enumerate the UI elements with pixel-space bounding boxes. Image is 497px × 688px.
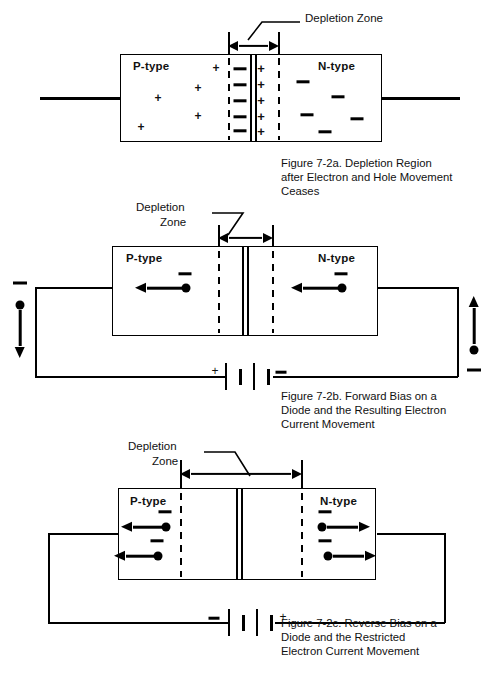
circuit-wire-right-b[interactable] <box>457 287 459 377</box>
figure-7-2c: Depletion Zone + P-type N-type <box>0 438 497 688</box>
battery-negative-terminal-c <box>209 617 220 620</box>
terminal-left-current-arrow-b <box>19 310 22 346</box>
electron-motion-arrow-c <box>126 555 155 558</box>
terminal-right-current-arrow-b <box>473 308 476 344</box>
depletion-leader-line-a <box>0 0 497 60</box>
depletion-width-arrow-b <box>229 237 262 239</box>
p-type-label-a: P-type <box>133 60 169 72</box>
junction-charge-plus: + <box>257 62 265 75</box>
circuit-wire-left-c[interactable] <box>48 533 50 623</box>
junction-line-a-1 <box>250 54 252 142</box>
battery-positive-terminal-b: + <box>211 365 218 377</box>
junction-charge-minus <box>234 99 247 102</box>
lead-left-a <box>40 97 120 100</box>
n-type-label-c: N-type <box>320 495 357 507</box>
electron-charge <box>332 95 345 98</box>
caption-line: Figure 7-2c. Reverse Bias on a <box>281 616 493 630</box>
depletion-boundary-left-a <box>228 58 230 140</box>
electron-motion-arrow-c <box>327 526 358 529</box>
depletion-boundary-right-c <box>301 493 303 577</box>
n-type-label-a: N-type <box>318 60 355 72</box>
hole-charge: + <box>194 82 201 94</box>
p-type-label-c: P-type <box>130 495 166 507</box>
electron-charge <box>301 113 314 116</box>
electron-charge-symbol-c <box>319 510 332 513</box>
electron-charge-symbol-c <box>151 539 164 542</box>
circuit-wire-top-left-c[interactable] <box>48 533 118 535</box>
electron-charge-symbol-b <box>179 272 192 275</box>
caption-line: Diode and the Restricted <box>281 630 493 644</box>
battery-plate-long-c <box>228 609 230 636</box>
electron-motion-arrow-b <box>303 287 339 290</box>
junction-line-c-2 <box>241 488 243 580</box>
battery-plate-long-b <box>225 363 227 390</box>
caption-line: after Electron and Hole Movement <box>281 170 493 184</box>
junction-charge-plus: + <box>257 110 265 123</box>
hole-charge: + <box>137 121 144 133</box>
circuit-wire-bottom-left-b[interactable] <box>35 376 225 378</box>
p-type-label-b: P-type <box>126 252 162 264</box>
circuit-wire-right-c[interactable] <box>444 533 446 623</box>
battery-plate-short-c <box>242 615 245 631</box>
hole-charge: + <box>154 92 161 104</box>
n-type-label-b: N-type <box>318 252 355 264</box>
junction-charge-plus: + <box>257 78 265 91</box>
electron-c <box>324 552 333 561</box>
depletion-width-arrow-c <box>191 473 291 475</box>
caption-line: Diode and the Resulting Electron <box>281 403 493 417</box>
depletion-width-arrow-a <box>239 45 268 47</box>
junction-charge-plus: + <box>257 125 265 138</box>
terminal-right-electron-b <box>470 346 479 355</box>
junction-line-b-2 <box>247 246 249 336</box>
electron-c <box>318 523 327 532</box>
circuit-wire-bottom-left-c[interactable] <box>48 622 228 624</box>
caption-line: Current Movement <box>281 417 493 431</box>
junction-charge-minus <box>234 83 247 86</box>
junction-charge-minus <box>234 115 247 118</box>
electron-motion-arrow-b <box>147 287 183 290</box>
figure-7-2a: Depletion Zone P-type N-type + + + + <box>0 0 497 210</box>
caption-line: Electron Current Movement <box>281 644 493 658</box>
hole-charge: + <box>194 110 201 122</box>
terminal-right-sign-b <box>467 369 481 372</box>
circuit-wire-left-b[interactable] <box>35 287 37 377</box>
battery-plate-short-b <box>239 369 242 385</box>
terminal-left-electron-b <box>16 301 25 310</box>
circuit-wire-bottom-right-b[interactable] <box>273 376 458 378</box>
electron-charge <box>319 130 332 133</box>
electron-motion-arrow-c <box>133 526 163 529</box>
battery-plate-short-b <box>267 369 270 385</box>
caption-7-2c: Figure 7-2c. Reverse Bias on a Diode and… <box>281 616 493 659</box>
hole-charge: + <box>212 62 219 74</box>
electron-charge-symbol-b <box>335 272 348 275</box>
junction-line-b-1 <box>242 246 244 336</box>
depletion-boundary-left-b <box>218 251 220 333</box>
caption-line: Figure 7-2b. Forward Bias on a <box>281 389 493 403</box>
battery-plate-long-c <box>256 609 258 636</box>
junction-charge-minus <box>234 67 247 70</box>
lead-right-a <box>382 97 460 100</box>
battery-plate-long-b <box>253 363 255 390</box>
figure-7-2b: Depletion Zone + <box>0 195 497 440</box>
electron-charge <box>297 80 310 83</box>
electron-charge <box>351 117 364 120</box>
depletion-boundary-right-a <box>278 58 280 140</box>
electron-motion-arrow-c <box>333 555 364 558</box>
junction-charge-plus: + <box>257 94 265 107</box>
battery-plate-short-c <box>270 615 273 631</box>
caption-7-2a: Figure 7-2a. Depletion Region after Elec… <box>281 156 493 199</box>
circuit-wire-top-right-c[interactable] <box>377 533 445 535</box>
electron-charge-symbol-c <box>159 510 172 513</box>
figure-sheet: Depletion Zone P-type N-type + + + + <box>0 0 497 688</box>
battery-negative-terminal-b <box>276 371 287 374</box>
terminal-left-sign-b <box>13 282 27 285</box>
depletion-boundary-left-c <box>180 493 182 577</box>
junction-charge-minus <box>234 129 247 132</box>
junction-line-c-1 <box>236 488 238 580</box>
caption-7-2b: Figure 7-2b. Forward Bias on a Diode and… <box>281 389 493 432</box>
electron-charge-symbol-c <box>319 539 332 542</box>
caption-line: Figure 7-2a. Depletion Region <box>281 156 493 170</box>
circuit-wire-top-right-b[interactable] <box>378 287 458 289</box>
depletion-boundary-right-b <box>272 251 274 333</box>
